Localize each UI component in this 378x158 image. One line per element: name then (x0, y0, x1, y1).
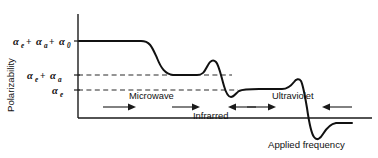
polarizability-vs-frequency-figure: α e + α a + α 0 α e + α a α e Polarizabi… (0, 0, 378, 158)
y-tick-label-electronic: α e (52, 85, 64, 99)
y-axis-title: Polarizability (5, 58, 16, 112)
x-axis-title: Applied frequency (268, 139, 345, 150)
svg-text:α: α (36, 36, 42, 47)
svg-text:a: a (58, 75, 62, 84)
svg-text:α: α (59, 36, 65, 47)
ultraviolet-arrow-left (322, 104, 352, 111)
svg-text:α: α (50, 70, 56, 81)
y-tick-marks (74, 41, 80, 90)
svg-text:α: α (27, 70, 33, 81)
plot-canvas: α e + α a + α 0 α e + α a α e Polarizabi… (0, 0, 378, 158)
svg-text:+: + (40, 70, 45, 81)
axes-group (78, 14, 372, 118)
reference-lines-group (78, 75, 238, 90)
svg-text:e: e (35, 75, 39, 84)
ultraviolet-arrow-right (247, 104, 276, 111)
svg-text:α: α (52, 85, 58, 96)
y-tick-label-electronic-atomic: α e + α a (27, 70, 62, 84)
svg-text:+: + (49, 36, 54, 47)
svg-text:α: α (13, 36, 19, 47)
region-label-microwave: Microwave (129, 90, 174, 101)
svg-text:0: 0 (67, 41, 71, 50)
svg-text:+: + (26, 36, 31, 47)
region-label-ultraviolet: Ultraviolet (272, 90, 314, 101)
microwave-arrow-right (103, 104, 136, 111)
svg-text:e: e (60, 90, 64, 99)
region-label-infrared: Infrarred (193, 110, 228, 121)
y-tick-label-total: α e + α a + α 0 (13, 36, 71, 50)
svg-text:e: e (21, 41, 25, 50)
svg-text:a: a (44, 41, 48, 50)
